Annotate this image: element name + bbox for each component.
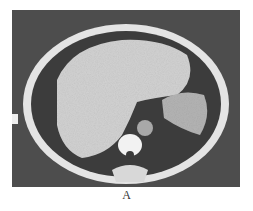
ct-scan-graphic xyxy=(12,10,240,187)
figure-caption: A xyxy=(0,188,253,203)
ct-scan-image xyxy=(12,10,240,187)
posterior-spine xyxy=(112,165,148,182)
side-marker xyxy=(12,114,18,124)
aorta xyxy=(137,120,153,136)
spinal-canal xyxy=(126,151,134,159)
